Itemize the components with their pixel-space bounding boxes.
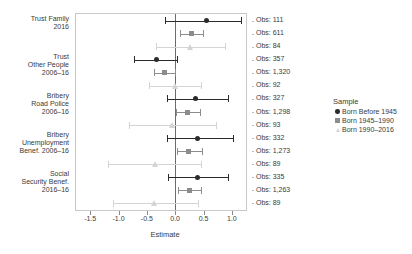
obs-tick	[252, 86, 254, 87]
obs-tick	[252, 203, 254, 204]
ci-lower-cap	[108, 161, 109, 168]
obs-count-label: Obs: 89	[256, 199, 281, 206]
x-tick-label: -0.5	[132, 215, 162, 222]
obs-tick	[252, 112, 254, 113]
y-axis-label-0: Trust Family 2016	[31, 15, 69, 31]
estimate-point	[172, 83, 178, 89]
obs-count-label: Obs: 92	[256, 81, 281, 88]
y-axis-labels: Trust Family 2016 Trust Other People 200…	[0, 13, 72, 211]
ci-lower-cap	[154, 69, 155, 76]
estimate-point	[152, 161, 158, 167]
legend-label-0: Born Before 1945	[342, 108, 397, 115]
x-tick-label: 0.5	[189, 215, 219, 222]
x-axis-tick-labels: -1.5-1.0-0.50.00.51.0	[0, 215, 330, 227]
chart-root: Trust Family 2016 Trust Other People 200…	[0, 0, 412, 254]
y-axis-label-2: Bribery Road Police 2006–16	[31, 92, 69, 117]
obs-tick	[252, 177, 254, 178]
estimate-point	[195, 136, 200, 141]
ci-upper-cap	[177, 56, 178, 63]
estimate-point	[195, 175, 200, 180]
estimate-point	[193, 96, 198, 101]
obs-tick	[252, 34, 254, 35]
ci-lower-cap	[149, 82, 150, 89]
obs-tick	[252, 73, 254, 74]
ci-upper-cap	[201, 187, 202, 194]
ci-lower-cap	[113, 200, 114, 207]
ci-upper-cap	[203, 30, 204, 37]
ci-lower-cap	[180, 30, 181, 37]
obs-count-label: Obs: 93	[256, 121, 281, 128]
obs-count-label: Obs: 327	[256, 94, 284, 101]
ci-upper-cap	[228, 174, 229, 181]
ci-upper-cap	[225, 43, 226, 50]
obs-count-label: Obs: 332	[256, 134, 284, 141]
estimate-point	[169, 122, 175, 128]
ci-lower-cap	[165, 17, 166, 24]
obs-tick	[252, 138, 254, 139]
estimate-point	[189, 31, 194, 36]
x-tick-label: 0.0	[160, 215, 190, 222]
square-marker-icon	[333, 118, 342, 123]
estimate-point	[185, 110, 190, 115]
ci-lower-cap	[177, 148, 178, 155]
legend-item-born-1990-2016: Born 1990–2016	[333, 125, 412, 134]
legend-label-1: Born 1945–1990	[342, 117, 394, 124]
ci-upper-cap	[241, 17, 242, 24]
ci-lower-cap	[134, 56, 135, 63]
triangle-marker-icon	[333, 128, 342, 132]
estimate-point	[154, 57, 159, 62]
ci-upper-cap	[228, 95, 229, 102]
ci-lower-cap	[168, 174, 169, 181]
estimate-point	[187, 44, 193, 50]
plot-inner	[76, 14, 246, 210]
y-axis-label-3: Bribery Unemployment Benef. 2006–16	[20, 131, 69, 156]
obs-tick	[252, 60, 254, 61]
estimate-point	[187, 188, 192, 193]
obs-count-label: Obs: 1,263	[256, 186, 290, 193]
obs-count-label: Obs: 89	[256, 160, 281, 167]
observation-counts-column: Obs: 111Obs: 611Obs: 84Obs: 357Obs: 1,32…	[252, 13, 322, 211]
obs-tick	[252, 125, 254, 126]
x-axis-title: Estimate	[0, 230, 330, 239]
ci-lower-cap	[167, 135, 168, 142]
estimate-point	[162, 70, 167, 75]
ci-upper-cap	[233, 135, 234, 142]
obs-count-label: Obs: 84	[256, 42, 281, 49]
ci-upper-cap	[201, 82, 202, 89]
y-axis-label-1: Trust Other People 2006–16	[28, 53, 69, 78]
obs-count-label: Obs: 1,320	[256, 68, 290, 75]
confidence-interval-bar	[165, 21, 241, 22]
ci-upper-cap	[198, 200, 199, 207]
legend-title: Sample	[333, 97, 412, 106]
x-tick-label: -1.0	[104, 215, 134, 222]
legend-item-born-before-1945: Born Before 1945	[333, 107, 412, 116]
obs-tick	[252, 164, 254, 165]
ci-upper-cap	[201, 161, 202, 168]
obs-count-label: Obs: 335	[256, 173, 284, 180]
obs-tick	[252, 99, 254, 100]
obs-count-label: Obs: 111	[256, 16, 283, 23]
ci-upper-cap	[200, 109, 201, 116]
ci-lower-cap	[156, 43, 157, 50]
ci-lower-cap	[178, 187, 179, 194]
ci-upper-cap	[216, 122, 217, 129]
legend-item-born-1945-1990: Born 1945–1990	[333, 116, 412, 125]
ci-upper-cap	[202, 148, 203, 155]
plot-area	[75, 13, 247, 211]
obs-count-label: Obs: 357	[256, 55, 284, 62]
ci-lower-cap	[129, 122, 130, 129]
obs-count-label: Obs: 1,273	[256, 147, 290, 154]
estimate-point	[186, 149, 191, 154]
estimate-point	[151, 200, 157, 206]
ci-lower-cap	[167, 95, 168, 102]
x-tick-label: -1.5	[75, 215, 105, 222]
obs-tick	[252, 21, 254, 22]
obs-tick	[252, 151, 254, 152]
x-tick-label: 1.0	[217, 215, 247, 222]
obs-tick	[252, 190, 254, 191]
legend-label-2: Born 1990–2016	[342, 126, 394, 133]
ci-upper-cap	[175, 69, 176, 76]
estimate-point	[204, 18, 209, 23]
obs-count-label: Obs: 611	[256, 29, 284, 36]
ci-lower-cap	[176, 109, 177, 116]
